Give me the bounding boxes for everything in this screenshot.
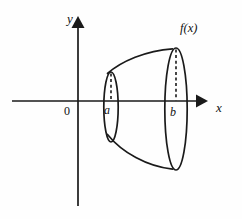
upper-profile-curve bbox=[108, 49, 173, 74]
y-axis bbox=[72, 16, 85, 206]
y-axis-label: y bbox=[67, 12, 73, 25]
y-axis-arrow-icon bbox=[72, 16, 85, 28]
solid-of-revolution-body bbox=[108, 49, 173, 169]
lower-profile-curve bbox=[108, 135, 173, 170]
lower-bound-label-a: a bbox=[104, 104, 110, 116]
solid-of-revolution-figure: y x 0 a b f(x) bbox=[0, 0, 242, 219]
x-axis-arrow-icon bbox=[196, 95, 208, 108]
origin-label: 0 bbox=[64, 105, 70, 117]
figure-canvas bbox=[0, 0, 242, 219]
function-label-fx: f(x) bbox=[180, 22, 197, 35]
cross-section-disk-b bbox=[165, 48, 187, 170]
upper-bound-label-b: b bbox=[170, 106, 176, 118]
x-axis-label: x bbox=[216, 101, 222, 114]
x-axis bbox=[12, 95, 208, 108]
